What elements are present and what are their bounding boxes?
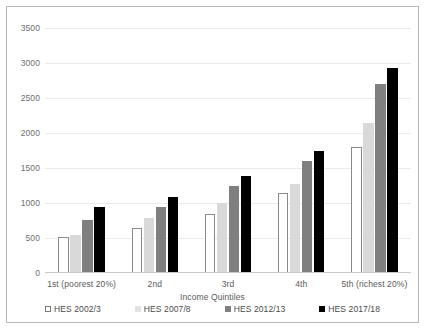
legend-swatch-icon (319, 306, 325, 312)
bar (156, 207, 167, 273)
legend-swatch-icon (135, 306, 141, 312)
bar (70, 235, 81, 273)
y-tick-label: 3000 (21, 58, 40, 68)
y-tick-label: 2500 (21, 93, 40, 103)
legend-label: HES 2012/13 (234, 304, 286, 314)
bar (278, 193, 289, 273)
x-tick-label: 4th (295, 279, 307, 289)
bar (241, 176, 252, 273)
bar-group (278, 28, 325, 273)
bar (314, 151, 325, 274)
chart-container: 0500100015002000250030003500 1st (poores… (6, 6, 419, 323)
bar (375, 84, 386, 273)
legend-swatch-icon (45, 306, 51, 312)
legend-item[interactable]: HES 2002/3 (45, 304, 101, 314)
chart-legend: HES 2002/3HES 2007/8HES 2012/13HES 2017/… (7, 304, 418, 314)
bar (229, 186, 240, 273)
bars-layer (45, 28, 411, 273)
y-tick-label: 3500 (21, 23, 40, 33)
bar (58, 237, 69, 273)
bar (363, 123, 374, 274)
y-tick-label: 1000 (21, 198, 40, 208)
bar (217, 203, 228, 273)
y-tick-label: 0 (35, 268, 40, 278)
x-tick-label: 3rd (222, 279, 235, 289)
y-tick-label: 2000 (21, 128, 40, 138)
bar (290, 184, 301, 273)
bar (132, 228, 143, 273)
bar-group (205, 28, 252, 273)
plot-area: 0500100015002000250030003500 (45, 28, 411, 273)
bar (94, 207, 105, 273)
y-tick-label: 500 (26, 233, 40, 243)
bar (302, 161, 313, 273)
bar-group (132, 28, 179, 273)
bar (82, 220, 93, 273)
x-axis-title: Income Quintiles (7, 292, 418, 302)
bar-group (58, 28, 105, 273)
legend-label: HES 2002/3 (54, 304, 101, 314)
y-tick-label: 1500 (21, 163, 40, 173)
x-tick-label: 5th (richest 20%) (341, 279, 407, 289)
bar (351, 147, 362, 273)
bar (144, 218, 155, 273)
legend-label: HES 2017/18 (328, 304, 380, 314)
legend-item[interactable]: HES 2012/13 (225, 304, 286, 314)
legend-item[interactable]: HES 2007/8 (135, 304, 191, 314)
bar (205, 214, 216, 273)
legend-swatch-icon (225, 306, 231, 312)
legend-item[interactable]: HES 2017/18 (319, 304, 380, 314)
legend-label: HES 2007/8 (144, 304, 191, 314)
bar-group (351, 28, 398, 273)
bar (168, 197, 179, 273)
x-tick-label: 2nd (148, 279, 162, 289)
x-axis-line (45, 272, 411, 273)
bar (387, 68, 398, 273)
x-tick-label: 1st (poorest 20%) (47, 279, 116, 289)
